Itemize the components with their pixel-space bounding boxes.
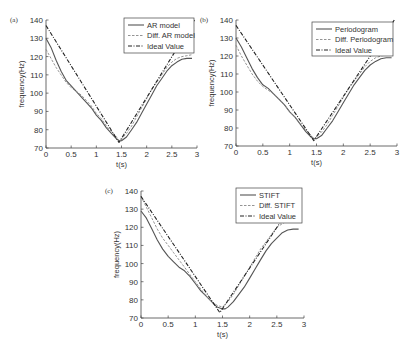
legend-label: Diff. AR model bbox=[147, 31, 195, 40]
y-tick-label: 130 bbox=[125, 205, 139, 214]
x-tick-label: 1.5 bbox=[116, 150, 128, 159]
x-tick-label: 3 bbox=[195, 150, 200, 159]
y-axis-title: frequency(Hz) bbox=[112, 230, 121, 278]
y-tick-label: 140 bbox=[30, 16, 44, 25]
y-tick-label: 70 bbox=[224, 142, 233, 151]
y-axis-title: frequency(Hz) bbox=[17, 60, 26, 108]
legend-label: Ideal Value bbox=[335, 46, 372, 55]
chart-panel-b: 00.511.522.53708090100110120130140t(s)fr… bbox=[200, 16, 400, 167]
x-axis-title: t(s) bbox=[311, 158, 322, 167]
x-tick-label: 2 bbox=[341, 148, 346, 157]
y-tick-label: 100 bbox=[125, 260, 139, 269]
x-tick-label: 2.5 bbox=[365, 148, 377, 157]
panel-label: (c) bbox=[105, 187, 113, 195]
chart-panel-a: 00.511.522.53708090100110120130140t(s)fr… bbox=[10, 16, 200, 169]
legend-label: Ideal Value bbox=[147, 42, 184, 51]
y-tick-label: 90 bbox=[224, 106, 233, 115]
series-line-stift bbox=[141, 211, 299, 309]
y-tick-label: 100 bbox=[220, 88, 234, 97]
x-tick-label: 2 bbox=[144, 150, 149, 159]
series-line-ar-model bbox=[46, 38, 192, 140]
legend-label: STIFT bbox=[259, 191, 280, 200]
y-tick-label: 70 bbox=[129, 314, 138, 323]
x-tick-label: 0 bbox=[234, 148, 239, 157]
x-tick-label: 1 bbox=[193, 320, 198, 329]
x-tick-label: 0.5 bbox=[257, 148, 269, 157]
y-tick-label: 80 bbox=[129, 296, 138, 305]
x-tick-label: 1.5 bbox=[217, 320, 229, 329]
y-tick-label: 80 bbox=[224, 124, 233, 133]
y-tick-label: 70 bbox=[34, 144, 43, 153]
legend-label: Diff. STIFT bbox=[259, 201, 296, 210]
x-tick-label: 2.5 bbox=[166, 150, 178, 159]
legend-label: Diff. Periodogram bbox=[335, 35, 393, 44]
x-tick-label: 1 bbox=[94, 150, 99, 159]
x-tick-label: 0.5 bbox=[66, 150, 78, 159]
series-line-diff-ar-model bbox=[46, 49, 192, 140]
x-tick-label: 3 bbox=[395, 148, 400, 157]
x-tick-label: 1.5 bbox=[311, 148, 323, 157]
legend: PeriodogramDiff. PeriodogramIdeal Value bbox=[312, 22, 393, 56]
y-tick-label: 130 bbox=[220, 34, 234, 43]
y-tick-label: 110 bbox=[30, 71, 43, 80]
y-tick-label: 110 bbox=[220, 70, 233, 79]
y-tick-label: 140 bbox=[125, 187, 139, 196]
y-tick-label: 140 bbox=[220, 16, 234, 25]
x-tick-label: 0 bbox=[139, 320, 144, 329]
x-tick-label: 3 bbox=[302, 320, 307, 329]
x-tick-label: 2 bbox=[247, 320, 252, 329]
x-tick-label: 0.5 bbox=[163, 320, 175, 329]
figure: 00.511.522.53708090100110120130140t(s)fr… bbox=[0, 0, 413, 353]
x-axis-title: t(s) bbox=[116, 160, 127, 169]
x-tick-label: 2.5 bbox=[271, 320, 283, 329]
y-tick-label: 90 bbox=[129, 278, 138, 287]
x-tick-label: 1 bbox=[287, 148, 292, 157]
chart-panel-c: 00.511.522.53708090100110120130140t(s)fr… bbox=[105, 187, 307, 339]
y-tick-label: 80 bbox=[34, 126, 43, 135]
x-tick-label: 0 bbox=[44, 150, 49, 159]
y-tick-label: 130 bbox=[30, 34, 44, 43]
panel-label: (b) bbox=[200, 16, 209, 24]
y-tick-label: 110 bbox=[125, 241, 138, 250]
y-tick-label: 120 bbox=[125, 223, 139, 232]
y-tick-label: 120 bbox=[220, 52, 234, 61]
legend-label: AR model bbox=[147, 21, 180, 30]
legend: STIFTDiff. STIFTIdeal Value bbox=[236, 188, 302, 223]
legend: AR modelDiff. AR modelIdeal Value bbox=[124, 18, 195, 53]
y-tick-label: 120 bbox=[30, 53, 44, 62]
y-tick-label: 100 bbox=[30, 89, 44, 98]
legend-label: Periodogram bbox=[335, 25, 378, 34]
panel-label: (a) bbox=[10, 16, 18, 24]
y-tick-label: 90 bbox=[34, 107, 43, 116]
legend-label: Ideal Value bbox=[259, 212, 296, 221]
x-axis-title: t(s) bbox=[217, 330, 228, 339]
y-axis-title: frequency(Hz) bbox=[207, 59, 216, 107]
